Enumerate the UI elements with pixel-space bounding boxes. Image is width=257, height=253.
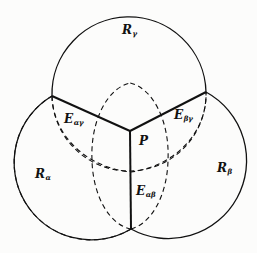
edge-beta-gamma <box>130 92 206 131</box>
label-e-alpha-gamma: Eαγ <box>64 113 84 125</box>
voronoi-junction-diagram: Rγ Rα Rβ Eαγ Eβγ Eαβ P <box>0 0 257 253</box>
dashed-arc-left-inner <box>92 83 131 229</box>
label-r-gamma: Rγ <box>122 24 137 36</box>
diagram-graphic <box>0 0 257 253</box>
label-r-alpha: Rα <box>35 168 51 180</box>
dashed-arc-right-inner <box>130 83 168 229</box>
edge-alpha-beta <box>130 131 131 229</box>
label-e-alpha-beta: Eαβ <box>136 185 156 197</box>
label-point-p: P <box>139 135 148 147</box>
label-r-beta: Rβ <box>217 162 232 174</box>
label-e-beta-gamma: Eβγ <box>174 109 193 121</box>
